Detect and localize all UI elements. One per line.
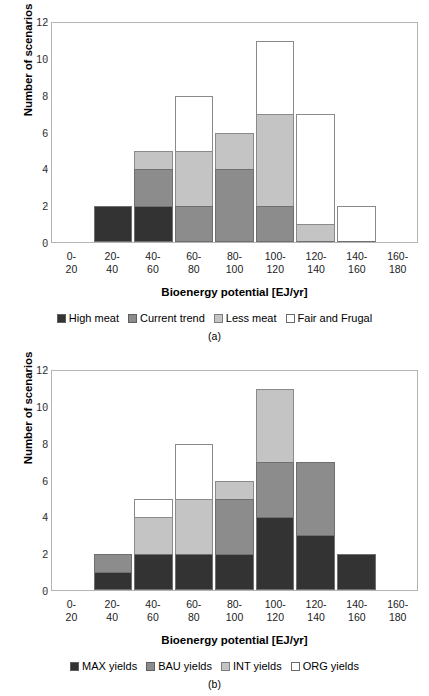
x-tick-label: 160-180 — [377, 598, 418, 624]
bar-segment — [256, 462, 295, 517]
stacked-bar[interactable] — [134, 151, 173, 242]
bar-slot — [336, 23, 377, 242]
x-tick-bottom: 40 — [92, 611, 133, 624]
legend-b: MAX yieldsBAU yieldsINT yieldsORG yields — [0, 660, 429, 672]
x-tick-bottom: 120 — [255, 611, 296, 624]
bar-segment — [256, 41, 295, 114]
x-tick-bottom: 60 — [133, 611, 174, 624]
bar-segment — [296, 535, 335, 590]
x-tick-top: 0- — [51, 250, 92, 263]
y-tick-mark — [44, 406, 48, 407]
y-tick-mark — [44, 480, 48, 481]
x-tick-label: 120-140 — [296, 250, 337, 276]
x-tick-top: 100- — [255, 598, 296, 611]
bar-segment — [134, 499, 173, 517]
stacked-bar[interactable] — [215, 481, 254, 591]
legend-item[interactable]: High meat — [57, 312, 119, 324]
legend-item[interactable]: ORG yields — [291, 660, 359, 672]
x-tick-bottom: 160 — [336, 263, 377, 276]
stacked-bar[interactable] — [256, 41, 295, 242]
bar-segment — [256, 517, 295, 590]
stacked-bar[interactable] — [94, 554, 133, 590]
figure-caption: (b) — [0, 678, 429, 690]
x-tick-top: 140- — [336, 598, 377, 611]
legend-item[interactable]: BAU yields — [146, 660, 212, 672]
x-tick-top: 20- — [92, 250, 133, 263]
x-tick-top: 120- — [296, 598, 337, 611]
x-tick-top: 120- — [296, 250, 337, 263]
stacked-bar[interactable] — [134, 499, 173, 590]
stacked-bar[interactable] — [175, 96, 214, 242]
stacked-bar[interactable] — [296, 462, 335, 590]
bar-slot — [295, 371, 336, 590]
figure-b: Number of scenarios0246810120-2020-4040-… — [0, 348, 429, 696]
legend-swatch-icon — [57, 314, 66, 323]
x-tick-label: 20-40 — [92, 598, 133, 624]
bar-segment — [175, 444, 214, 499]
legend-swatch-icon — [128, 314, 137, 323]
x-tick-bottom: 80 — [173, 611, 214, 624]
x-tick-label: 60-80 — [173, 598, 214, 624]
bar-segment — [256, 389, 295, 462]
bar-segment — [256, 114, 295, 205]
bar-slot — [52, 371, 93, 590]
legend-swatch-icon — [286, 314, 295, 323]
legend-item[interactable]: MAX yields — [70, 660, 137, 672]
bar-segment — [94, 554, 133, 572]
bar-segment — [134, 517, 173, 554]
legend-swatch-icon — [70, 662, 79, 671]
x-tick-top: 20- — [92, 598, 133, 611]
y-tick-mark — [44, 243, 48, 244]
x-axis-label: Bioenergy potential [EJ/yr] — [51, 286, 418, 298]
legend-label: MAX yields — [82, 660, 137, 672]
stacked-bar[interactable] — [215, 133, 254, 243]
x-tick-top: 160- — [377, 598, 418, 611]
bar-segment — [215, 481, 254, 499]
bar-segment — [215, 133, 254, 169]
x-tick-bottom: 180 — [377, 611, 418, 624]
y-axis-ticks: 024681012 — [24, 22, 48, 243]
legend-item[interactable]: Less meat — [214, 312, 277, 324]
legend-item[interactable]: Fair and Frugal — [286, 312, 373, 324]
bar-segment — [134, 206, 173, 243]
x-tick-top: 80- — [214, 598, 255, 611]
y-tick-mark — [44, 95, 48, 96]
x-tick-bottom: 80 — [173, 263, 214, 276]
stacked-bar[interactable] — [337, 206, 376, 242]
y-tick-mark — [44, 443, 48, 444]
bar-slot — [174, 23, 215, 242]
x-tick-label: 140-160 — [336, 598, 377, 624]
x-tick-bottom: 60 — [133, 263, 174, 276]
x-tick-top: 40- — [133, 250, 174, 263]
x-tick-label: 100-120 — [255, 598, 296, 624]
y-tick-mark — [44, 591, 48, 592]
stacked-bar[interactable] — [337, 554, 376, 590]
legend-item[interactable]: INT yields — [221, 660, 282, 672]
x-tick-label: 100-120 — [255, 250, 296, 276]
y-tick-mark — [44, 517, 48, 518]
legend-item[interactable]: Current trend — [128, 312, 205, 324]
bar-segment — [296, 462, 335, 535]
x-axis-label: Bioenergy potential [EJ/yr] — [51, 634, 418, 646]
stacked-bar[interactable] — [94, 206, 133, 242]
y-tick-mark — [44, 370, 48, 371]
stacked-bar[interactable] — [175, 444, 214, 590]
x-tick-label: 140-160 — [336, 250, 377, 276]
bar-segment — [134, 151, 173, 169]
legend-label: INT yields — [233, 660, 282, 672]
x-tick-bottom: 20 — [51, 611, 92, 624]
bar-slot — [93, 371, 134, 590]
bar-segment — [175, 499, 214, 554]
y-tick-mark — [44, 22, 48, 23]
stacked-bar[interactable] — [256, 389, 295, 590]
bar-segment — [175, 96, 214, 151]
bar-group — [52, 371, 417, 590]
bar-segment — [215, 169, 254, 242]
bar-segment — [215, 499, 254, 554]
bar-segment — [175, 554, 214, 590]
stacked-bar[interactable] — [296, 114, 335, 242]
bar-segment — [94, 572, 133, 590]
legend-label: Current trend — [140, 312, 205, 324]
bar-segment — [175, 151, 214, 206]
x-axis-ticks: 0-2020-4040-6060-8080-100100-120120-1401… — [51, 598, 418, 624]
